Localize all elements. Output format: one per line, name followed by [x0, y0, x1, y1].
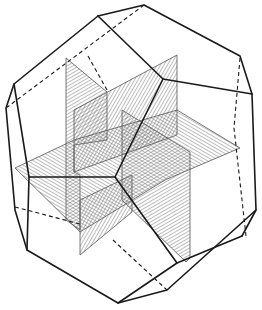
polyhedron-diagram	[0, 0, 262, 310]
hidden-edge	[113, 240, 167, 290]
edge-bottom-inner	[118, 263, 177, 303]
